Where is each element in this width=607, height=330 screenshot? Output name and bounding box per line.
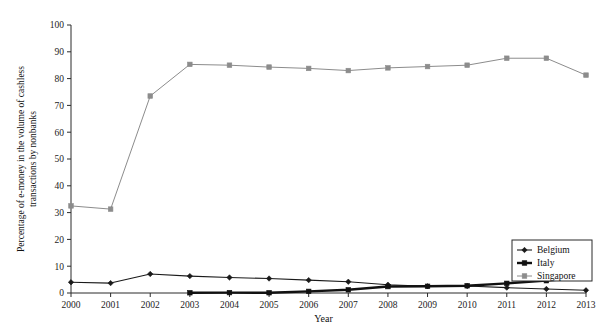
chart-figure: 0102030405060708090100200020012002200320… bbox=[0, 0, 607, 330]
series-singapore bbox=[69, 56, 589, 211]
data-point-singapore bbox=[227, 63, 232, 68]
legend-label-singapore: Singapore bbox=[537, 271, 576, 281]
y-tick-label: 10 bbox=[55, 262, 65, 272]
y-tick-label: 100 bbox=[50, 20, 65, 30]
x-tick-label: 2013 bbox=[577, 300, 596, 310]
data-point-italy bbox=[188, 290, 193, 295]
x-tick-label: 2007 bbox=[339, 300, 358, 310]
data-point-belgium bbox=[346, 279, 351, 284]
line-chart-canvas: 0102030405060708090100200020012002200320… bbox=[0, 0, 607, 330]
x-tick-label: 2011 bbox=[497, 300, 516, 310]
data-point-belgium bbox=[544, 286, 549, 291]
data-point-italy bbox=[386, 284, 391, 289]
y-tick-label: 30 bbox=[55, 208, 65, 218]
data-point-belgium bbox=[148, 271, 153, 276]
data-point-singapore bbox=[584, 73, 589, 78]
x-tick-label: 2009 bbox=[418, 300, 437, 310]
data-point-belgium bbox=[306, 277, 311, 282]
x-tick-label: 2002 bbox=[141, 300, 160, 310]
x-tick-label: 2005 bbox=[260, 300, 279, 310]
data-point-singapore bbox=[69, 204, 74, 209]
data-point-italy bbox=[267, 290, 272, 295]
x-tick-label: 2003 bbox=[180, 300, 199, 310]
legend-label-italy: Italy bbox=[537, 258, 555, 268]
y-tick-label: 50 bbox=[55, 154, 65, 164]
x-tick-label: 2012 bbox=[537, 300, 556, 310]
data-point-italy bbox=[306, 289, 311, 294]
x-tick-label: 2004 bbox=[220, 300, 239, 310]
legend-marker-italy bbox=[522, 261, 527, 266]
y-tick-label: 60 bbox=[55, 128, 65, 138]
y-tick-label: 20 bbox=[55, 235, 65, 245]
data-point-italy bbox=[227, 290, 232, 295]
data-point-belgium bbox=[108, 280, 113, 285]
y-tick-label: 40 bbox=[55, 181, 65, 191]
data-point-italy bbox=[465, 283, 470, 288]
data-point-singapore bbox=[108, 207, 113, 212]
data-point-belgium bbox=[187, 273, 192, 278]
data-point-belgium bbox=[266, 276, 271, 281]
data-point-singapore bbox=[386, 66, 391, 71]
y-tick-label: 70 bbox=[55, 101, 65, 111]
data-point-singapore bbox=[544, 56, 549, 61]
series-line-singapore bbox=[71, 58, 586, 209]
data-point-belgium bbox=[68, 280, 73, 285]
data-point-italy bbox=[504, 281, 509, 286]
x-tick-label: 2006 bbox=[299, 300, 318, 310]
y-tick-label: 90 bbox=[55, 47, 65, 57]
data-point-singapore bbox=[346, 68, 351, 73]
y-tick-label: 0 bbox=[59, 288, 64, 298]
x-tick-label: 2001 bbox=[101, 300, 120, 310]
y-axis-title-line: transactions by nonbanks bbox=[28, 111, 38, 207]
data-point-belgium bbox=[583, 288, 588, 293]
data-point-singapore bbox=[306, 66, 311, 71]
x-tick-label: 2010 bbox=[458, 300, 477, 310]
data-point-singapore bbox=[267, 65, 272, 70]
chart-legend: BelgiumItalySingapore bbox=[512, 240, 592, 281]
data-point-singapore bbox=[148, 94, 153, 99]
data-point-belgium bbox=[227, 275, 232, 280]
x-tick-label: 2008 bbox=[378, 300, 397, 310]
data-point-singapore bbox=[188, 62, 193, 67]
y-axis-title-line: Percentage of e-money in the volume of c… bbox=[16, 66, 26, 252]
data-point-italy bbox=[425, 284, 430, 289]
legend-label-belgium: Belgium bbox=[537, 245, 570, 255]
x-tick-label: 2000 bbox=[62, 300, 81, 310]
x-axis-title: Year bbox=[314, 313, 333, 324]
legend-marker-singapore bbox=[522, 274, 527, 279]
data-point-singapore bbox=[465, 63, 470, 68]
y-tick-label: 80 bbox=[55, 74, 65, 84]
data-point-singapore bbox=[504, 56, 509, 61]
data-point-singapore bbox=[425, 64, 430, 69]
data-point-italy bbox=[346, 287, 351, 292]
